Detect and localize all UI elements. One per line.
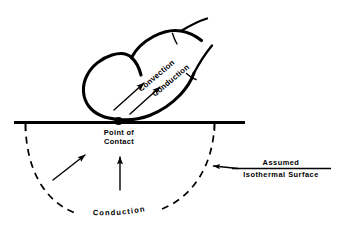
isothermal-arc-left — [26, 124, 79, 214]
conduction-arrow-diagonal — [53, 155, 85, 180]
fingertip-pad-outline — [83, 54, 131, 120]
finger-upper-contour — [132, 31, 202, 58]
point-of-contact-label-line2: Contact — [104, 137, 134, 146]
conduction-arc-label: Conduction — [93, 204, 146, 217]
isothermal-surface-callout: Assumed Isothermal Surface — [214, 158, 332, 179]
finger-lower-extension — [194, 46, 212, 74]
nail-notch-tick — [173, 34, 178, 45]
point-of-contact-dot — [114, 117, 122, 125]
isothermal-arc-right — [162, 124, 215, 209]
diagram-canvas: Convection Conduction Point of Contact C… — [0, 0, 339, 231]
heat-transfer-diagram: Convection Conduction Point of Contact C… — [0, 0, 339, 231]
finger-outline — [83, 19, 212, 120]
point-of-contact-label-line1: Point of — [104, 128, 134, 137]
assumed-label: Assumed — [263, 158, 300, 167]
isothermal-surface-label: Isothermal Surface — [243, 170, 319, 179]
finger-upper-extension — [181, 19, 207, 32]
fingertip-crease — [132, 58, 142, 76]
